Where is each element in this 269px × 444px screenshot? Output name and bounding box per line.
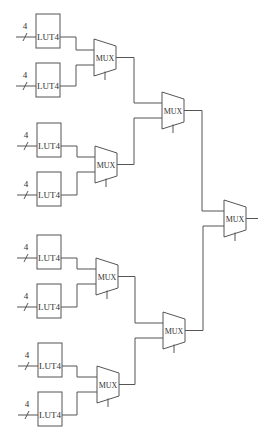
lut4-box bbox=[37, 284, 61, 318]
lut4-block: 4LUT4 bbox=[18, 343, 62, 377]
lut4-label: LUT4 bbox=[37, 81, 59, 91]
mux-label: MUX bbox=[97, 161, 116, 170]
wire bbox=[184, 111, 224, 212]
mux-block: MUX bbox=[97, 366, 119, 407]
lut4-box bbox=[36, 14, 60, 48]
lut4-label: LUT4 bbox=[38, 302, 60, 312]
lut4-block: 4LUT4 bbox=[17, 284, 61, 318]
lut4-label: LUT4 bbox=[38, 141, 60, 151]
lut4-label: LUT4 bbox=[39, 410, 61, 420]
mux-block: MUX bbox=[96, 258, 118, 299]
wire bbox=[60, 65, 94, 86]
mux-block: MUX bbox=[94, 39, 116, 80]
lut4-box bbox=[37, 235, 61, 269]
wire bbox=[61, 172, 95, 195]
mux-block: MUX bbox=[162, 92, 184, 133]
lut4-label: LUT4 bbox=[39, 361, 61, 371]
wire bbox=[60, 37, 94, 50]
wire bbox=[61, 146, 95, 157]
wire bbox=[116, 58, 162, 104]
bus-width-label: 4 bbox=[25, 350, 30, 360]
lut4-box bbox=[37, 172, 61, 206]
lut4-box bbox=[38, 392, 62, 426]
lut4-box bbox=[37, 123, 61, 157]
mux-tree-diagram: 4LUT44LUT44LUT44LUT44LUT44LUT44LUT44LUT4… bbox=[0, 0, 269, 444]
wire bbox=[62, 392, 97, 415]
mux-block: MUX bbox=[224, 200, 246, 241]
mux-label: MUX bbox=[165, 327, 184, 336]
mux-label: MUX bbox=[96, 54, 115, 63]
lut4-box bbox=[36, 63, 60, 97]
bus-width-label: 4 bbox=[24, 130, 29, 140]
lut4-block: 4LUT4 bbox=[16, 14, 60, 48]
lut4-block: 4LUT4 bbox=[18, 392, 62, 426]
bus-width-label: 4 bbox=[23, 21, 28, 31]
mux-label: MUX bbox=[98, 273, 117, 282]
lut4-block: 4LUT4 bbox=[17, 123, 61, 157]
lut4-block: 4LUT4 bbox=[16, 63, 60, 97]
wire bbox=[61, 284, 96, 307]
bus-width-label: 4 bbox=[25, 399, 30, 409]
mux-label: MUX bbox=[99, 381, 118, 390]
wire bbox=[61, 258, 96, 269]
wire bbox=[185, 226, 224, 331]
lut4-block: 4LUT4 bbox=[17, 235, 61, 269]
mux-block: MUX bbox=[95, 146, 117, 187]
bus-width-label: 4 bbox=[24, 179, 29, 189]
wire bbox=[118, 277, 163, 324]
lut4-box bbox=[38, 343, 62, 377]
lut4-label: LUT4 bbox=[38, 190, 60, 200]
mux-label: MUX bbox=[164, 107, 183, 116]
wire bbox=[119, 338, 163, 385]
wire bbox=[117, 118, 162, 165]
bus-width-label: 4 bbox=[23, 70, 28, 80]
wire bbox=[62, 366, 97, 377]
lut4-label: LUT4 bbox=[38, 253, 60, 263]
bus-width-label: 4 bbox=[24, 291, 29, 301]
lut4-block: 4LUT4 bbox=[17, 172, 61, 206]
lut4-label: LUT4 bbox=[37, 32, 59, 42]
mux-label: MUX bbox=[226, 215, 245, 224]
bus-width-label: 4 bbox=[24, 242, 29, 252]
mux-block: MUX bbox=[163, 312, 185, 353]
